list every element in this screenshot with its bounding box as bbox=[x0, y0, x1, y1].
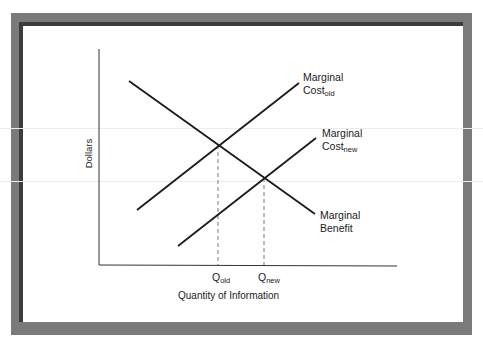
mb-label: Marginal Benefit bbox=[320, 209, 360, 234]
mc-new-label: Marginal Costnew bbox=[322, 127, 362, 156]
marginal-cost-new-line bbox=[178, 138, 316, 246]
y-axis-label: Dollars bbox=[83, 134, 94, 174]
q-new-tick-label: Qnew bbox=[258, 271, 280, 288]
x-axis-label: Quantity of Information bbox=[178, 290, 279, 301]
x-axis bbox=[99, 265, 397, 266]
mc-old-label: Marginal Costold bbox=[303, 71, 343, 100]
q-old-tick-label: Qold bbox=[212, 271, 230, 288]
